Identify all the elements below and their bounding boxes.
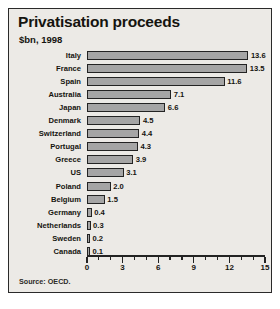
x-axis-tick-label: 3: [120, 263, 124, 272]
category-label: Italy: [9, 49, 81, 62]
category-label: Spain: [9, 75, 81, 88]
category-label: US: [9, 166, 81, 179]
category-label: Greece: [9, 153, 81, 166]
bar: [87, 129, 139, 138]
bar-row: Japan6.6: [9, 101, 273, 114]
bar: [87, 182, 111, 191]
category-label: Australia: [9, 88, 81, 101]
x-axis-major-tick: [193, 257, 194, 263]
bar-row: Australia7.1: [9, 88, 273, 101]
category-label: Netherlands: [9, 219, 81, 232]
category-label: Sweden: [9, 232, 81, 245]
x-axis-minor-tick: [205, 257, 206, 260]
bar-value-label: 0.2: [93, 232, 104, 245]
x-axis-minor-tick: [217, 257, 218, 260]
category-label: Belgium: [9, 193, 81, 206]
bar: [87, 142, 138, 151]
bar-row: Netherlands0.3: [9, 219, 273, 232]
bar-value-label: 2.0: [113, 180, 124, 193]
bar-value-label: 1.5: [107, 193, 118, 206]
bar-value-label: 7.1: [174, 88, 185, 101]
bar-row: Sweden0.2: [9, 232, 273, 245]
category-label: Canada: [9, 245, 81, 258]
x-axis-minor-tick: [181, 257, 182, 260]
bar: [87, 51, 248, 60]
bar: [87, 77, 225, 86]
x-axis-tick-label: 9: [192, 263, 196, 272]
bar-value-label: 6.6: [168, 101, 179, 114]
x-axis-tick-label: 15: [261, 263, 270, 272]
x-axis-major-tick: [229, 257, 230, 263]
source-note: Source: OECD.: [19, 277, 71, 286]
bar: [87, 168, 124, 177]
bar: [87, 208, 92, 217]
bar-value-label: 11.6: [227, 75, 241, 88]
bar: [87, 103, 165, 112]
bar-value-label: 4.3: [141, 140, 152, 153]
category-label: Germany: [9, 206, 81, 219]
bar-row: Greece3.9: [9, 153, 273, 166]
bar-row: Portugal4.3: [9, 140, 273, 153]
bar: [87, 234, 90, 243]
bar-row: Spain11.6: [9, 75, 273, 88]
x-axis-line: [87, 255, 265, 257]
x-axis-major-tick: [86, 257, 87, 263]
x-axis-minor-tick: [146, 257, 147, 260]
bar-value-label: 3.9: [136, 153, 147, 166]
bar-value-label: 13.5: [250, 62, 265, 75]
bar: [87, 155, 133, 164]
bar-row: Germany0.4: [9, 206, 273, 219]
bar-value-label: 4.4: [142, 127, 153, 140]
x-axis-major-tick: [264, 257, 265, 263]
bar: [87, 116, 140, 125]
x-axis-tick-label: 12: [225, 263, 234, 272]
bar-row: US3.1: [9, 166, 273, 179]
bar: [87, 195, 105, 204]
category-label: France: [9, 62, 81, 75]
x-axis-major-tick: [158, 257, 159, 263]
x-axis-tick-label: 0: [85, 263, 89, 272]
bar-value-label: 3.1: [126, 166, 137, 179]
x-axis-minor-tick: [253, 257, 254, 260]
bar-row: Belgium1.5: [9, 193, 273, 206]
bar-row: Switzerland4.4: [9, 127, 273, 140]
chart-plot-area: Italy13.6France13.5Spain11.6Australia7.1…: [9, 49, 273, 264]
x-axis-minor-tick: [134, 257, 135, 260]
chart-title: Privatisation proceeds: [18, 13, 180, 31]
bar-row: France13.5: [9, 62, 273, 75]
category-label: Portugal: [9, 140, 81, 153]
x-axis-minor-tick: [98, 257, 99, 260]
x-axis-minor-tick: [110, 257, 111, 260]
chart-subtitle: $bn, 1998: [19, 34, 62, 45]
category-label: Switzerland: [9, 127, 81, 140]
chart-figure: Privatisation proceeds $bn, 1998 Italy13…: [8, 8, 272, 293]
x-axis-minor-tick: [169, 257, 170, 260]
bar-value-label: 13.6: [251, 49, 266, 62]
bar-value-label: 0.3: [93, 219, 104, 232]
x-axis-minor-tick: [241, 257, 242, 260]
bar-value-label: 4.5: [143, 114, 154, 127]
x-axis-major-tick: [122, 257, 123, 263]
category-label: Japan: [9, 101, 81, 114]
bar: [87, 221, 91, 230]
bar: [87, 90, 171, 99]
bar-row: Denmark4.5: [9, 114, 273, 127]
category-label: Poland: [9, 180, 81, 193]
bar-row: Poland2.0: [9, 180, 273, 193]
category-label: Denmark: [9, 114, 81, 127]
bar-value-label: 0.4: [94, 206, 105, 219]
x-axis-tick-label: 6: [156, 263, 160, 272]
bar-row: Italy13.6: [9, 49, 273, 62]
bar: [87, 64, 247, 73]
